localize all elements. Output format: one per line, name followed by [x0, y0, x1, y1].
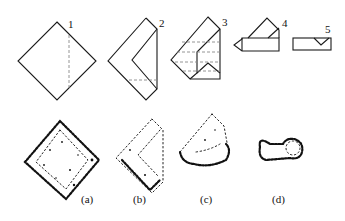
sample-label-b: (b): [133, 193, 146, 206]
folding-diagram: 1 2 3 4 5 (a): [0, 0, 345, 221]
step-label-1: 1: [68, 18, 74, 30]
fold-step-4: 4: [234, 17, 288, 51]
sample-d: (d): [260, 139, 303, 206]
sample-c: (c): [180, 114, 229, 206]
sample-label-a: (a): [81, 193, 94, 206]
fold-step-2: 2: [108, 17, 165, 100]
fold-step-5: 5: [293, 23, 331, 50]
step-label-3: 3: [222, 16, 228, 28]
step-label-5: 5: [325, 23, 331, 35]
fold-step-3: 3: [171, 16, 228, 79]
fold-step-1: 1: [18, 18, 96, 100]
step-label-2: 2: [159, 17, 165, 29]
sample-a: (a): [25, 121, 99, 206]
step-label-4: 4: [282, 17, 288, 29]
sample-b: (b): [116, 119, 163, 206]
sample-label-c: (c): [200, 193, 213, 206]
sample-label-d: (d): [272, 193, 285, 206]
